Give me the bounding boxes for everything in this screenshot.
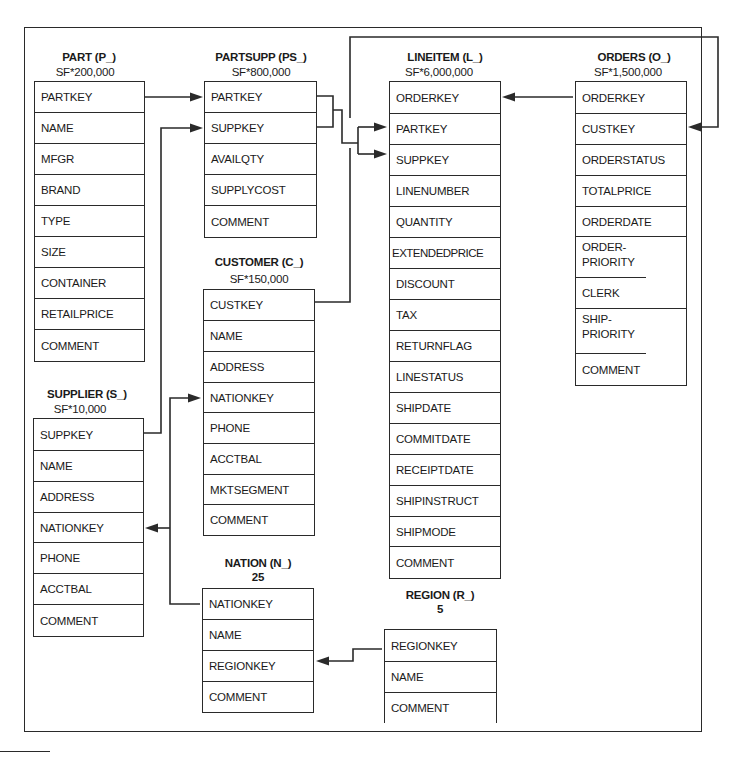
supplier-col-address: ADDRESS — [34, 482, 143, 513]
partsupp-col-comment: COMMENT — [205, 206, 316, 237]
lineitem-table-title: LINEITEM (L_) — [389, 51, 501, 63]
lineitem-col-shipdate: SHIPDATE — [390, 393, 500, 424]
partsupp-table-cardinality: SF*800,000 — [205, 66, 317, 78]
customer-col-comment: COMMENT — [204, 505, 314, 535]
lineitem-col-comment: COMMENT — [390, 547, 500, 578]
orders-col-custkey: CUSTKEY — [576, 114, 686, 145]
part-col-partkey: PARTKEY — [35, 82, 144, 113]
partsupp-table: PARTKEY SUPPKEY AVAILQTY SUPPLYCOST COMM… — [204, 81, 317, 238]
lineitem-col-linestatus: LINESTATUS — [390, 362, 500, 393]
customer-col-nationkey: NATIONKEY — [204, 383, 314, 413]
orders-col-shippriority: SHIP-PRIORITY — [576, 309, 646, 354]
nation-table-title: NATION (N_) — [202, 557, 314, 569]
orders-col-comment: COMMENT — [576, 354, 686, 385]
customer-col-address: ADDRESS — [204, 352, 314, 383]
lineitem-col-partkey: PARTKEY — [390, 114, 500, 145]
region-col-regionkey: REGIONKEY — [385, 630, 496, 662]
lineitem-col-shipmode: SHIPMODE — [390, 517, 500, 547]
supplier-table-title: SUPPLIER (S_) — [33, 388, 141, 400]
part-col-type: TYPE — [35, 206, 144, 237]
part-col-mfgr: MFGR — [35, 144, 144, 175]
footnote-rule — [0, 751, 50, 752]
supplier-col-name: NAME — [34, 451, 143, 482]
lineitem-table: ORDERKEY PARTKEY SUPPKEY LINENUMBER QUAN… — [389, 81, 501, 579]
orders-table: ORDERKEY CUSTKEY ORDERSTATUS TOTALPRICE … — [575, 81, 687, 386]
partsupp-table-title: PARTSUPP (PS_) — [205, 51, 317, 63]
lineitem-col-commitdate: COMMITDATE — [390, 424, 500, 455]
customer-col-custkey: CUSTKEY — [204, 290, 314, 321]
supplier-col-nationkey: NATIONKEY — [34, 513, 143, 543]
customer-col-mktsegment: MKTSEGMENT — [204, 475, 314, 505]
part-col-size: SIZE — [35, 237, 144, 268]
partsupp-col-suppkey: SUPPKEY — [205, 113, 316, 144]
lineitem-col-tax: TAX — [390, 300, 500, 331]
nation-table: NATIONKEY NAME REGIONKEY COMMENT — [202, 588, 314, 713]
lineitem-col-returnflag: RETURNFLAG — [390, 331, 500, 362]
lineitem-col-discount: DISCOUNT — [390, 269, 500, 300]
region-table: REGIONKEY NAME COMMENT — [384, 629, 497, 723]
lineitem-col-quantity: QUANTITY — [390, 207, 500, 238]
customer-table: CUSTKEY NAME ADDRESS NATIONKEY PHONE ACC… — [203, 289, 315, 536]
part-col-container: CONTAINER — [35, 268, 144, 299]
part-col-name: NAME — [35, 113, 144, 144]
lineitem-col-shipinstruct: SHIPINSTRUCT — [390, 486, 500, 517]
part-table-title: PART (P_) — [34, 51, 144, 63]
part-table: PARTKEY NAME MFGR BRAND TYPE SIZE CONTAI… — [34, 81, 145, 362]
part-col-comment: COMMENT — [35, 330, 144, 361]
customer-table-cardinality: SF*150,000 — [203, 273, 315, 285]
region-table-cardinality: 5 — [384, 603, 496, 615]
customer-table-title: CUSTOMER (C_) — [203, 256, 315, 268]
lineitem-col-receiptdate: RECEIPTDATE — [390, 455, 500, 486]
supplier-col-phone: PHONE — [34, 543, 143, 574]
supplier-table: SUPPKEY NAME ADDRESS NATIONKEY PHONE ACC… — [33, 418, 144, 637]
orders-col-orderstatus: ORDERSTATUS — [576, 145, 686, 176]
partsupp-col-supplycost: SUPPLYCOST — [205, 175, 316, 206]
supplier-table-cardinality: SF*10,000 — [30, 403, 130, 415]
part-col-retailprice: RETAILPRICE — [35, 299, 144, 330]
supplier-col-suppkey: SUPPKEY — [34, 419, 143, 451]
customer-col-name: NAME — [204, 321, 314, 352]
customer-col-acctbal: ACCTBAL — [204, 444, 314, 475]
customer-col-phone: PHONE — [204, 413, 314, 444]
region-table-title: REGION (R_) — [384, 589, 496, 601]
nation-col-name: NAME — [203, 620, 313, 651]
lineitem-col-extendedprice: EXTENDEDPRICE — [390, 238, 500, 269]
orders-col-clerk: CLERK — [576, 278, 686, 309]
nation-col-regionkey: REGIONKEY — [203, 651, 313, 682]
supplier-col-comment: COMMENT — [34, 605, 143, 636]
lineitem-col-suppkey: SUPPKEY — [390, 145, 500, 176]
nation-col-nationkey: NATIONKEY — [203, 589, 313, 620]
region-col-comment: COMMENT — [385, 693, 496, 723]
orders-table-cardinality: SF*1,500,000 — [572, 66, 684, 78]
partsupp-col-availqty: AVAILQTY — [205, 144, 316, 175]
supplier-col-acctbal: ACCTBAL — [34, 574, 143, 605]
orders-col-orderdate: ORDERDATE — [576, 207, 686, 237]
part-table-cardinality: SF*200,000 — [30, 66, 140, 78]
lineitem-col-linenumber: LINENUMBER — [390, 176, 500, 207]
orders-col-orderpriority: ORDER-PRIORITY — [576, 237, 646, 278]
region-col-name: NAME — [385, 662, 496, 693]
nation-table-cardinality: 25 — [202, 571, 314, 583]
lineitem-table-cardinality: SF*6,000,000 — [383, 66, 495, 78]
part-col-brand: BRAND — [35, 175, 144, 206]
orders-col-totalprice: TOTALPRICE — [576, 176, 686, 207]
orders-table-title: ORDERS (O_) — [578, 51, 690, 63]
partsupp-col-partkey: PARTKEY — [205, 82, 316, 113]
orders-col-orderkey: ORDERKEY — [576, 82, 686, 114]
lineitem-col-orderkey: ORDERKEY — [390, 82, 500, 114]
nation-col-comment: COMMENT — [203, 682, 313, 712]
